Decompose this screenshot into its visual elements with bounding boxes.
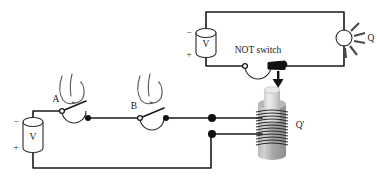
solenoid-q-prime: Q' bbox=[256, 87, 305, 160]
switch-a-label: A bbox=[53, 94, 60, 104]
switch-a-pivot bbox=[60, 109, 65, 114]
bottom-battery-minus-sign: − bbox=[13, 116, 18, 126]
diagram-canvas: V − + NOT switch Q bbox=[0, 0, 377, 179]
switch-a[interactable]: A bbox=[53, 74, 91, 123]
lamp-q-ray-1 bbox=[351, 23, 359, 31]
bottom-battery-label: V bbox=[30, 132, 37, 142]
lamp-q: Q bbox=[336, 23, 375, 58]
top-circuit-wire-upper bbox=[206, 12, 344, 32]
circuit-diagram: V − + NOT switch Q bbox=[0, 0, 377, 179]
switch-b-terminal-node bbox=[163, 115, 169, 121]
solenoid-plunger-top bbox=[264, 87, 280, 93]
lamp-q-label: Q bbox=[368, 33, 375, 43]
switch-b-label: B bbox=[131, 101, 137, 111]
lamp-q-ray-4 bbox=[350, 46, 357, 55]
solenoid-lower-node bbox=[208, 130, 216, 138]
switch-a-finger-icon bbox=[60, 74, 84, 104]
bottom-circuit-group: V − + A bbox=[13, 74, 262, 168]
bottom-wire-return bbox=[33, 134, 262, 168]
bottom-battery: V − + bbox=[13, 116, 43, 153]
not-switch-pivot bbox=[243, 64, 248, 69]
switch-b-pivot bbox=[138, 116, 143, 121]
switch-b-lever bbox=[140, 108, 164, 118]
not-switch-contact-node bbox=[281, 61, 288, 68]
lamp-q-ray-3 bbox=[354, 41, 365, 43]
top-battery-top-ellipse bbox=[196, 29, 216, 38]
not-switch-arc bbox=[245, 66, 271, 79]
solenoid-label: Q' bbox=[296, 120, 305, 130]
actuation-arrow bbox=[273, 71, 284, 88]
lamp-q-ray-2 bbox=[354, 33, 365, 36]
bottom-battery-top-ellipse bbox=[23, 118, 43, 127]
lamp-q-ray-5 bbox=[345, 48, 346, 58]
switch-a-arc bbox=[62, 111, 86, 123]
top-battery-label: V bbox=[203, 39, 210, 49]
solenoid-upper-node bbox=[208, 114, 216, 122]
lamp-q-bulb bbox=[336, 30, 352, 46]
not-switch[interactable]: NOT switch bbox=[235, 45, 288, 79]
top-battery-minus-sign: − bbox=[186, 27, 191, 37]
switch-b[interactable]: B bbox=[131, 74, 169, 130]
top-battery: V − + bbox=[186, 27, 216, 59]
switch-b-arc bbox=[140, 118, 164, 130]
switch-a-terminal-node bbox=[85, 115, 91, 121]
solenoid-plunger bbox=[264, 90, 280, 123]
not-switch-label: NOT switch bbox=[235, 45, 282, 55]
switch-b-finger-icon bbox=[138, 74, 162, 104]
bottom-battery-plus-sign: + bbox=[13, 142, 18, 152]
top-circuit-wire-lamp-lower bbox=[285, 46, 344, 66]
top-circuit-group: V − + NOT switch Q bbox=[186, 12, 374, 88]
top-battery-plus-sign: + bbox=[186, 49, 191, 59]
